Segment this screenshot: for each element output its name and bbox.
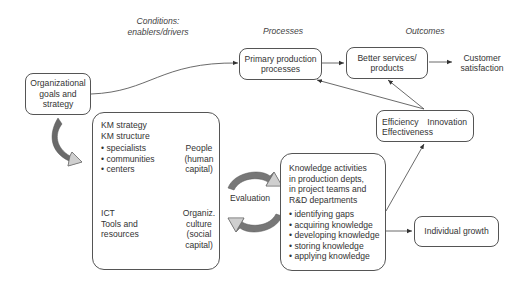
innovation-label: Innovation — [427, 117, 467, 128]
efficiency-label: Efficiency — [382, 117, 419, 128]
org-goals-box: Organizational goals and strategy — [25, 73, 91, 115]
knowledge-item: storing knowledge — [289, 241, 379, 252]
knowledge-activities-box: Knowledge activities in production depts… — [280, 153, 386, 271]
km-item: centers — [101, 164, 155, 175]
knowledge-item: developing knowledge — [289, 230, 379, 241]
primary-production-box: Primary production processes — [239, 48, 322, 80]
culture-label: Organiz. culture (social capital) — [179, 208, 219, 250]
curved-arrow-icon — [52, 118, 82, 166]
km-strategy-box: KM strategy KM structure specialists com… — [92, 112, 220, 270]
knowledge-item: identifying gaps — [289, 209, 379, 220]
individual-growth-box: Individual growth — [414, 216, 499, 247]
km-items-list: specialists communities centers — [101, 143, 155, 175]
outcomes-metrics-box: Efficiency Innovation Effectiveness — [376, 110, 474, 142]
people-label: People (human capital) — [181, 143, 217, 175]
knowledge-item: applying knowledge — [289, 251, 379, 262]
effectiveness-label: Effectiveness — [382, 127, 433, 138]
evaluation-label: Evaluation — [230, 193, 270, 204]
km-item: specialists — [101, 143, 155, 154]
better-services-box: Better services/ products — [346, 47, 428, 79]
km-title: KM strategy KM structure — [101, 120, 150, 141]
ict-label: ICT Tools and resources — [101, 208, 139, 240]
knowledge-title: Knowledge activities in production depts… — [289, 163, 367, 205]
knowledge-items-list: identifying gaps acquiring knowledge dev… — [289, 209, 379, 262]
knowledge-item: acquiring knowledge — [289, 220, 379, 231]
km-item: communities — [101, 154, 155, 165]
customer-satisfaction-label: Customer satisfaction — [452, 52, 512, 74]
